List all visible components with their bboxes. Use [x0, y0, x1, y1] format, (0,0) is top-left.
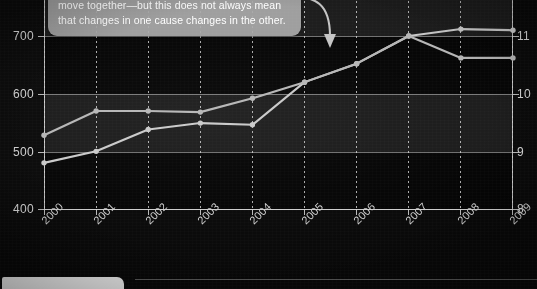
y-axis-right-label-10: 10	[517, 87, 535, 101]
point-series-left-axis-2003	[198, 120, 203, 125]
annotation-callout-text: Two variables may be closely correlated—…	[58, 0, 291, 27]
point-series-left-axis-2000	[41, 160, 46, 165]
footer-rule	[135, 279, 537, 280]
chart-screenshot: 700 600 500 400 11 10 9 8 2000 2001 2002…	[0, 0, 537, 289]
point-series-left-axis-2008	[458, 26, 463, 31]
curved-arrow-icon	[286, 0, 346, 62]
y-axis-left-label-700: 700	[2, 29, 34, 43]
point-series-right-axis-2000	[41, 132, 46, 137]
point-series-right-axis-2003	[198, 109, 203, 114]
line-series-right-axis	[44, 36, 513, 135]
point-series-right-axis-2005	[302, 79, 307, 84]
y-axis-right-label-9: 9	[517, 145, 535, 159]
point-series-right-axis-2004	[250, 96, 255, 101]
y-axis-right-label-11: 11	[517, 29, 535, 43]
y-axis-left-label-400: 400	[2, 202, 34, 216]
point-series-right-axis-2009	[510, 55, 515, 60]
point-series-left-axis-2002	[146, 127, 151, 132]
y-axis-left-label-600: 600	[2, 87, 34, 101]
point-series-right-axis-2001	[93, 108, 98, 113]
annotation-callout: Two variables may be closely correlated—…	[48, 0, 301, 36]
point-series-left-axis-2004	[250, 122, 255, 127]
point-series-left-axis-2001	[93, 149, 98, 154]
y-axis-left-label-500: 500	[2, 145, 34, 159]
point-series-right-axis-2007	[406, 33, 411, 38]
point-series-right-axis-2002	[146, 108, 151, 113]
point-series-right-axis-2006	[354, 61, 359, 66]
point-series-right-axis-2008	[458, 55, 463, 60]
page-tab[interactable]	[2, 277, 124, 289]
point-series-left-axis-2009	[510, 28, 515, 33]
